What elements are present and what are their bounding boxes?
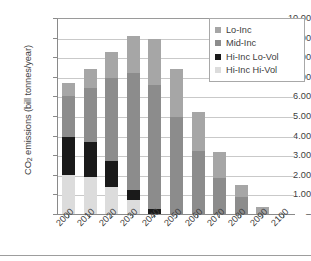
bar-segment[interactable] <box>148 39 161 85</box>
bar-segment[interactable] <box>213 152 226 178</box>
bar-group[interactable] <box>84 18 97 214</box>
bottom-divider <box>0 255 311 256</box>
bar-group[interactable] <box>148 18 161 214</box>
legend-item-label: Hi-Inc Lo-Vol <box>226 52 279 62</box>
y-axis-title-prefix: CO <box>23 161 33 175</box>
legend-item[interactable]: Lo-Inc <box>215 23 300 37</box>
bar-group[interactable] <box>105 18 118 214</box>
bar-segment[interactable] <box>170 69 183 117</box>
legend-item-label: Mid-Inc <box>226 38 256 48</box>
legend-color-swatch <box>215 54 221 60</box>
bar-group[interactable] <box>127 18 140 214</box>
bar-group[interactable] <box>192 18 205 214</box>
bar-segment[interactable] <box>105 52 118 78</box>
co2-emissions-stacked-bar-chart: CO2 emissions (bill tonnes/year) 10.009.… <box>0 0 311 261</box>
legend-item-label: Hi-Inc Hi-Vol <box>226 65 277 75</box>
bar-segment[interactable] <box>62 137 75 175</box>
bar-segment[interactable] <box>192 112 205 151</box>
bar-segment[interactable] <box>62 96 75 136</box>
bar-segment[interactable] <box>127 73 140 190</box>
bar-segment[interactable] <box>192 151 205 214</box>
bar-segment[interactable] <box>62 83 75 97</box>
legend-item[interactable]: Hi-Inc Hi-Vol <box>215 64 300 78</box>
bar-segment[interactable] <box>84 142 97 177</box>
bar-segment[interactable] <box>148 85 161 209</box>
legend-item[interactable]: Hi-Inc Lo-Vol <box>215 50 300 64</box>
legend-color-swatch <box>215 27 221 33</box>
legend-item-label: Lo-Inc <box>226 25 252 35</box>
bar-group[interactable] <box>62 18 75 214</box>
y-axis-title: CO2 emissions (bill tonnes/year) <box>23 15 33 205</box>
bar-segment[interactable] <box>84 88 97 143</box>
bar-segment[interactable] <box>84 69 97 87</box>
bar-segment[interactable] <box>105 78 118 161</box>
legend-item[interactable]: Mid-Inc <box>215 37 300 51</box>
bar-segment[interactable] <box>170 117 183 214</box>
legend-color-swatch <box>215 67 221 73</box>
legend-color-swatch <box>215 40 221 46</box>
y-axis-title-suffix: emissions (bill tonnes/year) <box>23 45 33 157</box>
y-axis-title-subscript: 2 <box>26 157 33 161</box>
bar-segment[interactable] <box>127 36 140 72</box>
bar-group[interactable] <box>170 18 183 214</box>
bar-segment[interactable] <box>235 185 248 197</box>
bar-segment[interactable] <box>105 161 118 186</box>
bar-segment[interactable] <box>127 190 140 200</box>
chart-legend: Lo-IncMid-IncHi-Inc Lo-VolHi-Inc Hi-Vol <box>209 18 305 82</box>
